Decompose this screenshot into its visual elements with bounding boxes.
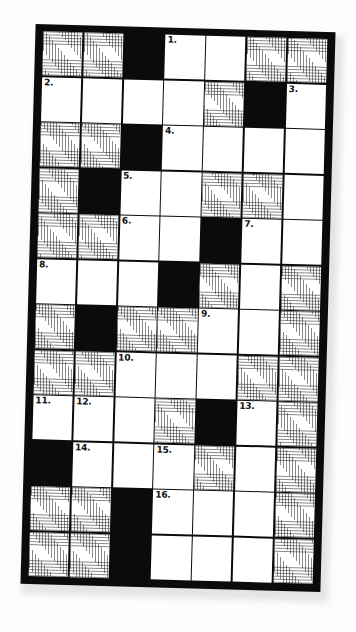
crossword-cell-r9-c4[interactable]	[155, 399, 195, 444]
crossword-cell-r3-c3	[121, 125, 161, 170]
crossword-cell-r1-c7[interactable]	[287, 38, 327, 83]
crossword-cell-r2-c5[interactable]	[204, 81, 244, 126]
crossword-cell-r3-c6[interactable]	[244, 128, 284, 173]
crossword-cell-r7-c3[interactable]	[116, 307, 156, 352]
clue-number: 8.	[39, 259, 49, 270]
crossword-cell-r12-c3	[110, 534, 150, 579]
crossword-cell-r7-c6[interactable]	[239, 310, 279, 355]
crossword-cell-r4-c4[interactable]	[161, 171, 201, 216]
clue-number: 13.	[239, 401, 255, 412]
crossword-frame: 1.2.3.4.5.6.7.8.9.10.11.12.13.14.15.16.	[20, 24, 335, 592]
clue-number: 3.	[289, 83, 299, 94]
crossword-cell-r4-c2	[79, 169, 119, 214]
crossword-cell-r11-c1[interactable]	[30, 486, 70, 531]
crossword-cell-r5-c6[interactable]: 7.	[241, 219, 281, 264]
crossword-cell-r10-c3[interactable]	[113, 443, 153, 488]
crossword-cell-r8-c4[interactable]	[156, 353, 196, 398]
crossword-cell-r9-c3[interactable]	[114, 398, 154, 443]
crossword-cell-r10-c5[interactable]	[194, 445, 234, 490]
page-background: 1.2.3.4.5.6.7.8.9.10.11.12.13.14.15.16.	[0, 0, 356, 632]
crossword-cell-r6-c7[interactable]	[281, 265, 321, 310]
crossword-cell-r12-c6[interactable]	[233, 538, 273, 583]
clue-number: 5.	[123, 170, 133, 181]
crossword-cell-r7-c5[interactable]: 9.	[198, 309, 238, 354]
clue-number: 12.	[76, 397, 92, 408]
crossword-cell-r8-c5[interactable]	[197, 354, 237, 399]
crossword-cell-r5-c2[interactable]	[78, 214, 118, 259]
crossword-cell-r4-c5[interactable]	[202, 172, 242, 217]
crossword-cell-r9-c6[interactable]: 13.	[236, 401, 276, 446]
crossword-cell-r6-c3[interactable]	[118, 261, 158, 306]
crossword-cell-r10-c7[interactable]	[276, 448, 316, 493]
crossword-cell-r6-c6[interactable]	[240, 264, 280, 309]
crossword-cell-r12-c1[interactable]	[29, 532, 69, 577]
crossword-cell-r9-c5	[195, 400, 235, 445]
crossword-cell-r3-c2[interactable]	[81, 123, 121, 168]
crossword-cell-r1-c6[interactable]	[246, 37, 286, 82]
crossword-cell-r7-c1[interactable]	[35, 304, 75, 349]
crossword-cell-r8-c1[interactable]	[34, 350, 74, 395]
crossword-cell-r2-c4[interactable]	[163, 80, 203, 125]
crossword-cell-r11-c2[interactable]	[71, 488, 111, 533]
crossword-cell-r5-c5	[200, 218, 240, 263]
crossword-cell-r4-c6[interactable]	[242, 173, 282, 218]
crossword-cell-r10-c6[interactable]	[235, 446, 275, 491]
crossword-cell-r1-c2[interactable]	[83, 32, 123, 77]
crossword-cell-r11-c5[interactable]	[193, 491, 233, 536]
clue-number: 11.	[35, 396, 51, 407]
crossword-cell-r4-c7[interactable]	[283, 174, 323, 219]
crossword-cell-r8-c7[interactable]	[278, 357, 318, 402]
crossword-cell-r6-c2[interactable]	[77, 260, 117, 305]
clue-number: 10.	[118, 352, 134, 363]
crossword-cell-r6-c1[interactable]: 8.	[36, 259, 76, 304]
crossword-cell-r10-c4[interactable]: 15.	[153, 444, 193, 489]
crossword-cell-r2-c3[interactable]	[123, 79, 163, 124]
crossword-cell-r8-c6[interactable]	[237, 355, 277, 400]
crossword-cell-r8-c3[interactable]: 10.	[115, 352, 155, 397]
clue-number: 2.	[44, 77, 54, 88]
clue-number: 9.	[201, 309, 211, 320]
crossword-cell-r8-c2[interactable]	[74, 351, 114, 396]
crossword-cell-r3-c7[interactable]	[284, 129, 324, 174]
crossword-cell-r12-c7[interactable]	[273, 539, 313, 584]
crossword-cell-r3-c5[interactable]	[203, 127, 243, 172]
crossword-cell-r5-c1[interactable]	[37, 213, 77, 258]
crossword-cell-r3-c1[interactable]	[40, 122, 80, 167]
crossword-cell-r5-c7[interactable]	[282, 220, 322, 265]
crossword-cell-r11-c6[interactable]	[234, 492, 274, 537]
clue-number: 6.	[122, 216, 132, 227]
crossword-cell-r12-c4[interactable]	[151, 535, 191, 580]
crossword-cell-r7-c7[interactable]	[279, 311, 319, 356]
crossword-cell-r1-c3	[124, 33, 164, 78]
crossword-cell-r11-c7[interactable]	[275, 493, 315, 538]
crossword-cell-r12-c2[interactable]	[69, 533, 109, 578]
crossword-cell-r2-c6	[245, 82, 285, 127]
crossword-cell-r9-c1[interactable]: 11.	[32, 395, 72, 440]
crossword-grid: 1.2.3.4.5.6.7.8.9.10.11.12.13.14.15.16.	[29, 31, 328, 583]
crossword-puzzle: 1.2.3.4.5.6.7.8.9.10.11.12.13.14.15.16.	[20, 24, 335, 592]
crossword-cell-r12-c5[interactable]	[192, 536, 232, 581]
crossword-cell-r3-c4[interactable]: 4.	[162, 126, 202, 171]
crossword-cell-r6-c5[interactable]	[199, 263, 239, 308]
clue-number: 7.	[244, 219, 254, 230]
crossword-cell-r11-c4[interactable]: 16.	[152, 490, 192, 535]
crossword-cell-r4-c3[interactable]: 5.	[120, 170, 160, 215]
crossword-cell-r2-c7[interactable]: 3.	[286, 83, 326, 128]
crossword-cell-r6-c4	[158, 262, 198, 307]
crossword-cell-r1-c5[interactable]	[205, 36, 245, 81]
clue-number: 16.	[155, 490, 171, 501]
crossword-cell-r11-c3	[111, 489, 151, 534]
crossword-cell-r10-c1	[31, 441, 71, 486]
crossword-cell-r10-c2[interactable]: 14.	[72, 442, 112, 487]
crossword-cell-r1-c1[interactable]	[42, 31, 82, 76]
crossword-cell-r9-c2[interactable]: 12.	[73, 397, 113, 442]
crossword-cell-r1-c4[interactable]: 1.	[165, 35, 205, 80]
crossword-cell-r7-c4[interactable]	[157, 308, 197, 353]
crossword-cell-r5-c4[interactable]	[160, 217, 200, 262]
crossword-cell-r9-c7[interactable]	[277, 402, 317, 447]
crossword-cell-r4-c1[interactable]	[39, 168, 79, 213]
crossword-cell-r2-c1[interactable]: 2.	[41, 77, 81, 122]
crossword-cell-r2-c2[interactable]	[82, 78, 122, 123]
crossword-cell-r5-c3[interactable]: 6.	[119, 216, 159, 261]
clue-number: 4.	[165, 126, 175, 137]
